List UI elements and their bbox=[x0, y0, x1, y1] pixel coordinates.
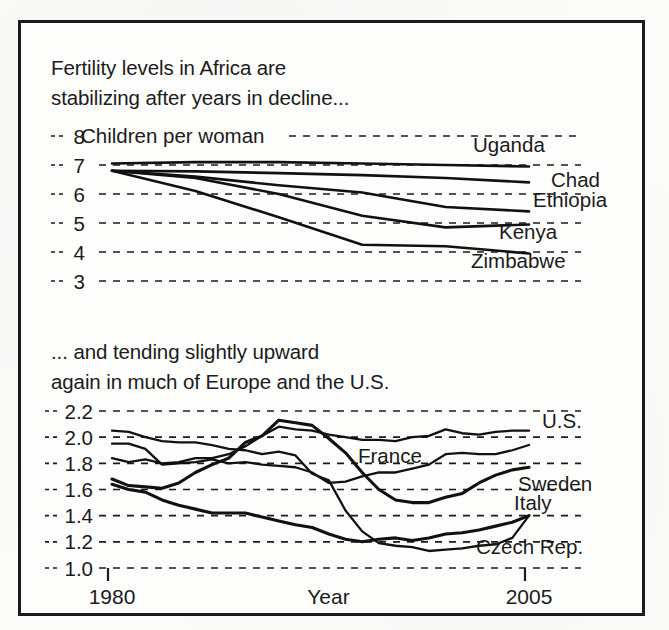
europe-us-chart-panel: 2.22.01.81.61.41.21.0 U.S.FranceSwedenIt… bbox=[21, 397, 648, 619]
africa-chart-panel: 876543 UgandaChadEthiopiaKenyaZimbabwe C… bbox=[21, 119, 648, 309]
y-tick-label: 1.8 bbox=[65, 452, 94, 475]
africa-line-chart: 876543 UgandaChadEthiopiaKenyaZimbabwe C… bbox=[21, 119, 648, 309]
series-label-u.s.: U.S. bbox=[542, 409, 582, 432]
series-label-czech-rep.: Czech Rep. bbox=[476, 535, 583, 558]
children-per-woman-note: Children per woman bbox=[81, 124, 264, 147]
y-tick-label: 2.2 bbox=[65, 400, 94, 423]
top-caption-line-1: Fertility levels in Africa are bbox=[51, 56, 286, 79]
europe-series-labels: U.S.FranceSwedenItalyCzech Rep. bbox=[358, 409, 592, 558]
top-caption-line-2: stabilizing after years in decline... bbox=[51, 86, 349, 109]
europe-us-line-chart: 2.22.01.81.61.41.21.0 U.S.FranceSwedenIt… bbox=[21, 397, 648, 619]
y-tick-label: 7 bbox=[74, 154, 85, 177]
y-tick-label: 4 bbox=[74, 241, 85, 264]
figure-screen: Fertility levels in Africa are stabilizi… bbox=[0, 0, 669, 630]
y-tick-label: 1.0 bbox=[65, 557, 94, 580]
x-tick-label: 2005 bbox=[506, 585, 553, 608]
series-label-ethiopia: Ethiopia bbox=[533, 188, 608, 211]
series-label-italy: Italy bbox=[514, 491, 552, 514]
y-tick-label: 1.4 bbox=[65, 504, 94, 527]
bottom-caption-line-2: again in much of Europe and the U.S. bbox=[51, 370, 389, 393]
figure-frame: Fertility levels in Africa are stabilizi… bbox=[18, 20, 645, 616]
series-label-uganda: Uganda bbox=[473, 133, 545, 156]
y-tick-label: 3 bbox=[74, 270, 85, 293]
y-tick-label: 1.2 bbox=[65, 530, 94, 553]
bottom-caption-line-1: ... and tending slightly upward bbox=[51, 340, 319, 363]
africa-series-labels: UgandaChadEthiopiaKenyaZimbabwe bbox=[471, 133, 608, 272]
y-tick-label: 6 bbox=[74, 183, 85, 206]
y-tick-label: 2.0 bbox=[65, 426, 94, 449]
x-tick-label: 1980 bbox=[89, 585, 136, 608]
europe-series-lines bbox=[112, 420, 529, 551]
y-tick-label: 5 bbox=[74, 212, 85, 235]
europe-x-axis: 19802005Year bbox=[89, 568, 553, 608]
africa-series-lines bbox=[112, 162, 529, 253]
europe-y-axis-labels: 2.22.01.81.61.41.21.0 bbox=[45, 400, 93, 580]
series-label-france: France bbox=[358, 444, 422, 467]
africa-y-axis-labels: 876543 bbox=[51, 125, 85, 293]
x-axis-title: Year bbox=[307, 585, 349, 608]
series-line-zimbabwe bbox=[112, 171, 529, 254]
series-label-zimbabwe: Zimbabwe bbox=[471, 249, 566, 272]
series-line-italy bbox=[112, 484, 529, 542]
series-label-kenya: Kenya bbox=[499, 220, 558, 243]
y-tick-label: 1.6 bbox=[65, 478, 94, 501]
top-caption: Fertility levels in Africa are stabilizi… bbox=[51, 53, 349, 113]
bottom-caption: ... and tending slightly upward again in… bbox=[51, 337, 389, 397]
